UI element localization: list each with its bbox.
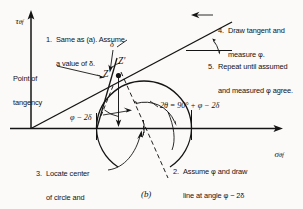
phi-minus-2delta-leader-arrowhead [124, 108, 132, 113]
step2-leader-line [168, 112, 174, 150]
step-1-line2: a value of δ. [46, 60, 125, 68]
step-4-number: 4. [218, 27, 228, 35]
point-of-tangency-line2: tangency [13, 99, 42, 107]
step-2-line1: Assume φ and draw [183, 168, 247, 176]
figure-caption: (b) [141, 189, 151, 199]
step-1-number: 1. [46, 36, 56, 44]
step-5-number: 5. [208, 63, 218, 71]
step-1-line1: Same as (a). Assume [56, 36, 125, 44]
step-2-line2: line at angle φ − 2δ [173, 192, 247, 200]
point-of-tangency-callout: Point of tangency [13, 58, 42, 124]
mohr-circle-lower-arc [97, 129, 119, 168]
step3-leader-arrowhead [137, 131, 143, 140]
step-2-callout: 2. Assume φ and draw line at angle φ − 2… [173, 151, 247, 209]
step-3-line1: Locate center [46, 170, 89, 178]
y-axis-label-subscript: θf [19, 18, 24, 25]
mohr-circle-construction-figure: τθf σθf Z Z' δ Point of tangency φ − 2δ … [0, 0, 303, 209]
x-axis-label: σθf [266, 139, 284, 169]
step-5-line1: Repeat until assumed [218, 63, 288, 71]
x-axis-label-subscript: θf [279, 151, 284, 158]
step-1-callout: 1. Same as (a). Assume a value of δ. [46, 19, 125, 85]
step-3-line2: of circle and [36, 194, 89, 202]
step-3-callout: 3. Locate center of circle and draw circ… [36, 153, 89, 209]
step3-leader-line [108, 136, 140, 170]
point-of-tangency-line1: Point of [13, 75, 42, 83]
step-3-number: 3. [36, 170, 46, 178]
phi-minus-2delta-label: φ − 2δ [70, 113, 91, 122]
step-4-line1: Draw tangent and [228, 27, 285, 35]
step-5-line2: and measured φ agree. [208, 87, 293, 95]
step-2-number: 2. [173, 168, 183, 176]
y-axis-label: τθf [7, 6, 24, 36]
step-5-callout: 5. Repeat until assumed and measured φ a… [208, 46, 293, 112]
